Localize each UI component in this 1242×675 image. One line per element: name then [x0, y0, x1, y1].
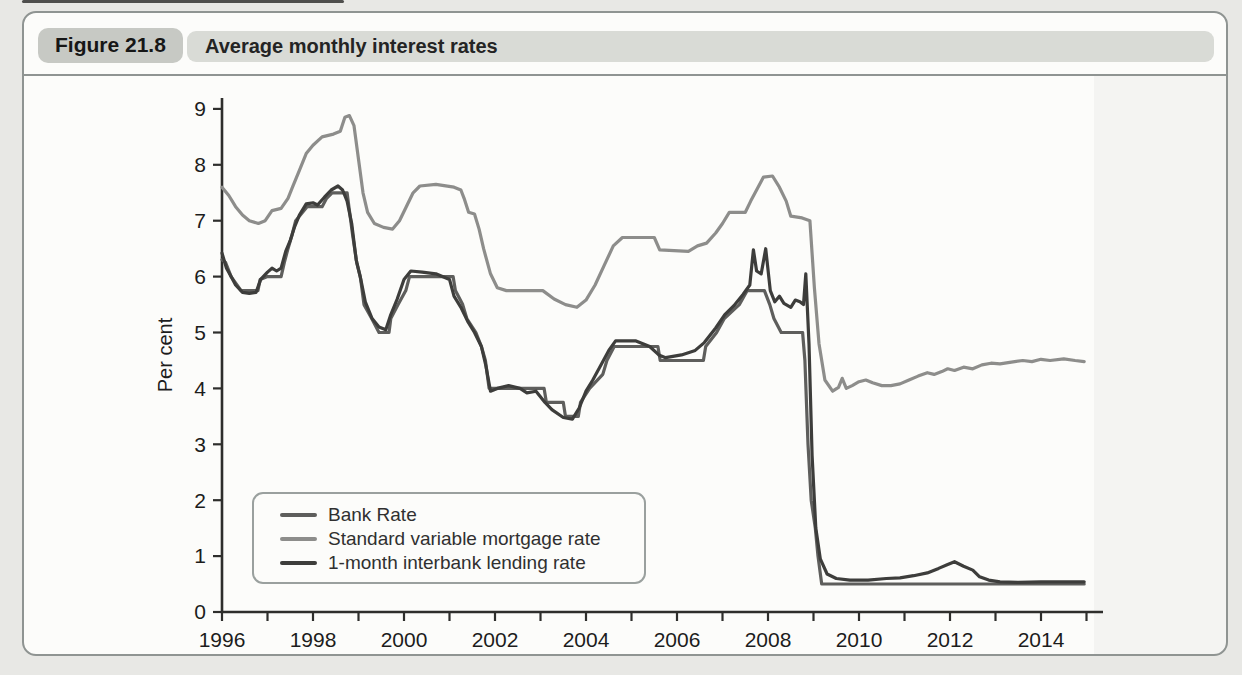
y-tick-label: 7 — [194, 209, 206, 232]
legend-label-interbank-rate: 1-month interbank lending rate — [328, 552, 586, 574]
x-tick-label: 2000 — [381, 628, 428, 651]
x-tick-label: 2010 — [836, 628, 883, 651]
legend-item-bank-rate: Bank Rate — [280, 503, 644, 527]
y-tick-label: 3 — [194, 433, 206, 456]
x-tick-label: 2014 — [1018, 628, 1065, 651]
x-tick-label: 1996 — [199, 628, 246, 651]
y-tick-label: 5 — [194, 321, 206, 344]
y-tick-label: 4 — [194, 377, 206, 400]
legend-item-mortgage-rate: Standard variable mortgage rate — [280, 527, 644, 551]
x-tick-label: 2012 — [927, 628, 974, 651]
legend-label-mortgage-rate: Standard variable mortgage rate — [328, 528, 601, 550]
x-tick-label: 2004 — [563, 628, 610, 651]
x-tick-label: 2002 — [472, 628, 519, 651]
x-tick-label: 2006 — [654, 628, 701, 651]
chart-legend: Bank Rate Standard variable mortgage rat… — [252, 492, 646, 584]
mortgage-rate-line-swatch — [280, 537, 317, 541]
y-tick-label: 1 — [194, 544, 206, 567]
bank-rate-line-swatch — [280, 513, 317, 517]
y-tick-label: 2 — [194, 489, 206, 512]
x-tick-label: 1998 — [290, 628, 337, 651]
interbank-rate-line-swatch — [280, 561, 317, 565]
y-tick-label: 9 — [194, 97, 206, 120]
y-tick-label: 0 — [194, 600, 206, 623]
y-tick-label: 6 — [194, 265, 206, 288]
legend-item-interbank-rate: 1-month interbank lending rate — [280, 551, 644, 575]
legend-label-bank-rate: Bank Rate — [328, 504, 417, 526]
y-tick-label: 8 — [194, 153, 206, 176]
y-axis-label: Per cent — [154, 317, 176, 392]
x-tick-label: 2008 — [745, 628, 792, 651]
